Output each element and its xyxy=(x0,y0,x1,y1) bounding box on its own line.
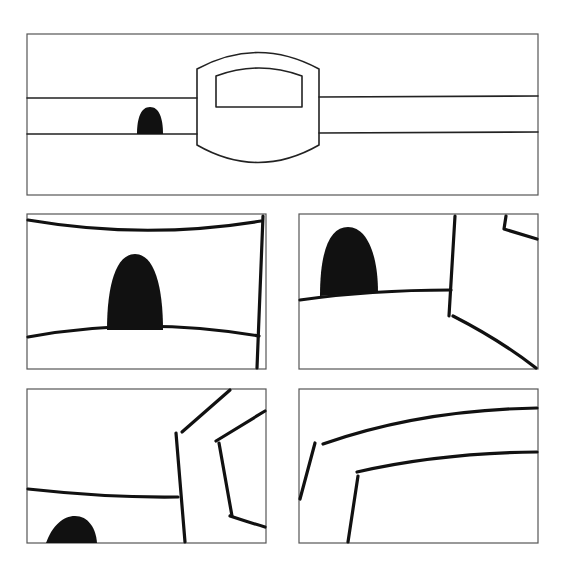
panel-top xyxy=(27,34,538,195)
panel-bottom-right xyxy=(299,389,538,543)
lower-rail-right xyxy=(319,132,538,133)
panel-mid-left xyxy=(27,214,266,369)
panel-bottom-left xyxy=(27,389,266,543)
panel-top-frame xyxy=(27,34,538,195)
panel-bottom-right-frame xyxy=(299,389,538,543)
upper-rail-right xyxy=(319,96,538,97)
panel-mid-right xyxy=(299,214,538,369)
